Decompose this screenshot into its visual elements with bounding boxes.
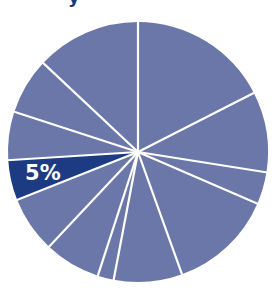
slice-labels: 5% (25, 161, 61, 185)
slice-percentage-label: 5% (25, 161, 61, 185)
pie-chart: 5% (0, 0, 278, 293)
